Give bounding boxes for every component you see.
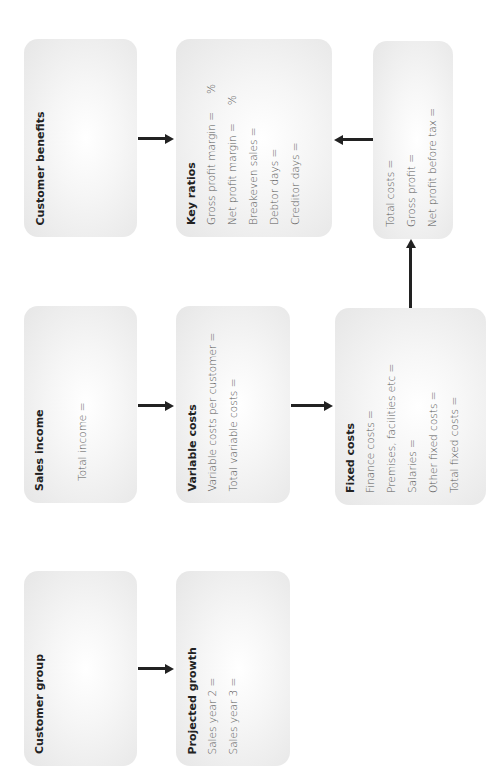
totals-box: Total costs = Gross profit = Net profit … [373,41,453,239]
arrow-variable-costs-to-fixed-costs [291,404,327,407]
key-ratios-box: Key ratios Gross profit margin =% Net pr… [176,39,332,237]
customer-benefits-title: Customer benefits [34,49,45,225]
sales-income-title: Sales income [34,316,45,491]
arrow-customer-group-to-projected-growth [138,667,168,670]
breakeven-sales-field: Breakeven sales = [248,49,259,225]
arrow-totals-to-key-ratios [340,138,373,141]
gross-profit-margin-field: Gross profit margin =% [206,49,217,225]
net-profit-before-tax-field: Net profit before tax = [427,51,438,227]
total-income-field: Total income = [77,316,88,481]
debtor-days-field: Debtor days = [269,49,280,225]
sales-year-2-field: Sales year 2 = [206,581,217,754]
key-ratios-title: Key ratios [186,49,197,225]
variable-costs-title: Variable costs [186,316,197,491]
customer-group-box: Customer group [24,571,137,766]
customer-benefits-box: Customer benefits [24,39,137,237]
variable-costs-per-customer-field: Variable costs per customer = [206,316,217,491]
fixed-costs-box: Fixed costs Finance costs = Premises, fa… [335,308,486,505]
salaries-field: Salaries = [407,318,418,493]
customer-group-title: Customer group [34,581,45,754]
variable-costs-box: Variable costs Variable costs per custom… [176,306,290,503]
arrow-sales-income-to-variable-costs [138,404,168,407]
total-variable-costs-field: Total variable costs = [227,316,238,491]
sales-income-box: Sales income Total income = [24,306,137,503]
arrow-customer-benefits-to-key-ratios [138,137,168,140]
premises-facilities-field: Premises, facilities etc = [386,318,397,493]
creditor-days-field: Creditor days = [290,49,301,225]
projected-growth-title: Projected growth [186,581,197,754]
sales-year-3-field: Sales year 3 = [227,581,238,754]
fixed-costs-title: Fixed costs [345,318,356,493]
net-profit-margin-field: Net profit margin =% [227,49,238,225]
other-fixed-costs-field: Other fixed costs = [428,318,439,493]
total-fixed-costs-field: Total fixed costs = [449,318,460,493]
arrow-fixed-costs-to-totals [409,246,412,308]
total-costs-field: Total costs = [385,51,396,227]
projected-growth-box: Projected growth Sales year 2 = Sales ye… [176,571,290,766]
finance-costs-field: Finance costs = [365,318,376,493]
gross-profit-field: Gross profit = [406,51,417,227]
